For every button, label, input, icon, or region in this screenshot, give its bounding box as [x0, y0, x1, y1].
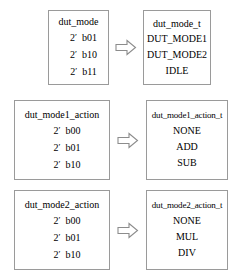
literal-bits: b10	[82, 49, 97, 60]
target-enum-value: ADD	[176, 139, 198, 155]
source-enum-title: dut_mode	[59, 14, 99, 29]
source-enum-box: dut_mode 2′b01 2′b10 2′b11	[48, 10, 109, 85]
literal-prime: ′	[75, 32, 77, 42]
target-enum-value: NONE	[173, 213, 201, 229]
source-enum-value: 2′b10	[49, 46, 108, 63]
literal-bits: b01	[65, 232, 80, 243]
literal-bits: b11	[82, 66, 97, 77]
literal-bits: b00	[65, 125, 80, 136]
enum-mapping-diagram: dut_mode 2′b01 2′b10 2′b11 dut_mode_t DU…	[0, 0, 245, 280]
literal-bits: b00	[65, 215, 80, 226]
literal-prime: ′	[75, 49, 77, 59]
target-enum-value: DUT_MODE1	[147, 31, 207, 47]
literal-prime: ′	[59, 232, 61, 242]
source-enum-value: 2′b00	[15, 122, 109, 139]
block-arrow-right-icon	[117, 132, 139, 149]
target-enum-box: dut_mode2_action_t NONE MUL DIV	[146, 190, 228, 270]
literal-prime: ′	[59, 159, 61, 169]
literal-prime: ′	[59, 142, 61, 152]
literal-prime: ′	[59, 125, 61, 135]
literal-bits: b10	[65, 159, 80, 170]
block-arrow-right-icon	[117, 222, 139, 239]
source-enum-value: 2′b00	[15, 212, 109, 229]
literal-bits: b01	[65, 142, 80, 153]
target-enum-value: DUT_MODE2	[147, 47, 207, 63]
literal-bits: b01	[82, 32, 97, 43]
arrow-container	[109, 39, 143, 56]
source-enum-value: 2′b10	[15, 156, 109, 173]
literal-prime: ′	[75, 66, 77, 76]
source-enum-value: 2′b11	[49, 63, 108, 80]
arrow-container	[110, 132, 146, 149]
target-enum-value: SUB	[177, 155, 196, 171]
source-enum-title: dut_mode1_action	[25, 107, 99, 122]
target-enum-title: dut_mode2_action_t	[152, 198, 222, 213]
arrow-container	[110, 222, 146, 239]
target-enum-box: dut_mode_t DUT_MODE1 DUT_MODE2 IDLE	[143, 10, 211, 85]
source-enum-value: 2′b10	[15, 246, 109, 263]
target-enum-value: DIV	[178, 245, 196, 261]
mapping-row: dut_mode 2′b01 2′b10 2′b11 dut_mode_t DU…	[48, 10, 211, 85]
target-enum-title: dut_mode_t	[153, 16, 201, 31]
source-enum-box: dut_mode1_action 2′b00 2′b01 2′b10	[14, 100, 110, 180]
source-enum-value: 2′b01	[49, 29, 108, 46]
literal-prime: ′	[59, 249, 61, 259]
source-enum-value: 2′b01	[15, 139, 109, 156]
block-arrow-right-icon	[115, 39, 137, 56]
target-enum-title: dut_mode1_action_t	[152, 108, 222, 123]
source-enum-title: dut_mode2_action	[25, 197, 99, 212]
source-enum-box: dut_mode2_action 2′b00 2′b01 2′b10	[14, 190, 110, 270]
target-enum-value: MUL	[176, 229, 198, 245]
literal-bits: b10	[65, 249, 80, 260]
literal-prime: ′	[59, 215, 61, 225]
mapping-row: dut_mode2_action 2′b00 2′b01 2′b10 dut_m…	[14, 190, 228, 270]
target-enum-value: IDLE	[166, 63, 189, 79]
source-enum-value: 2′b01	[15, 229, 109, 246]
target-enum-box: dut_mode1_action_t NONE ADD SUB	[146, 100, 228, 180]
target-enum-value: NONE	[173, 123, 201, 139]
mapping-row: dut_mode1_action 2′b00 2′b01 2′b10 dut_m…	[14, 100, 228, 180]
